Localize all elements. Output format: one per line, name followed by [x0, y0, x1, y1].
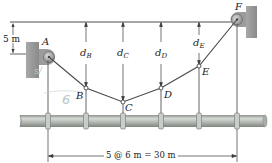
span-dimension-label: 5 @ 6 m = 30 m [104, 151, 178, 160]
label-point-e: E [202, 67, 209, 77]
label-point-d: D [164, 90, 172, 100]
handwritten-note-6: 6 [62, 92, 70, 107]
label-sag-d: dD [155, 48, 167, 60]
sag-arrows [85, 23, 201, 101]
label-sag-e: dE [193, 38, 205, 50]
handwritten-note-s: s/ [34, 66, 42, 76]
label-point-b: B [76, 91, 83, 101]
pipe [20, 115, 267, 127]
cable-joints [84, 64, 201, 104]
label-point-a: A [42, 37, 49, 47]
cable-pipe-diagram [0, 0, 272, 163]
right-wall [246, 6, 257, 38]
label-sag-c: dC [117, 48, 129, 60]
label-point-f: F [235, 2, 242, 12]
label-point-c: C [125, 103, 133, 113]
height-dimension-label: 5 m [3, 35, 20, 44]
label-sag-b: dB [80, 48, 92, 60]
